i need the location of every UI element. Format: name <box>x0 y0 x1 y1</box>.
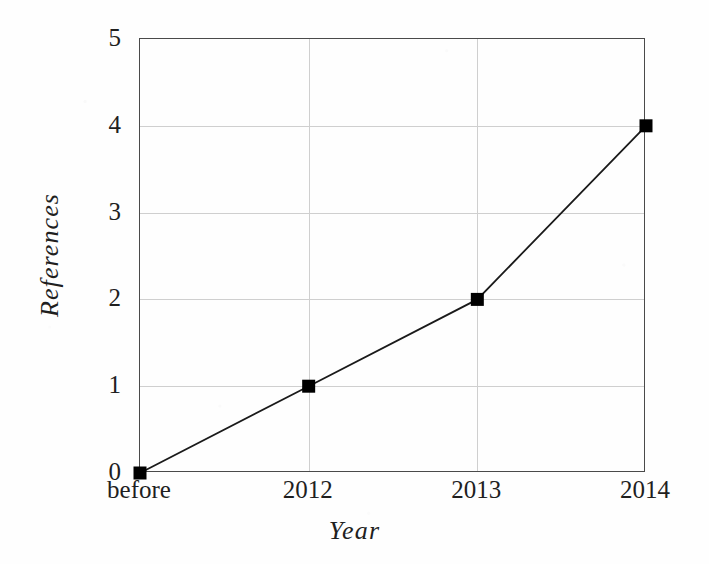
x-axis-title: Year <box>0 516 709 546</box>
y-axis-title: References <box>35 193 65 317</box>
chart-figure: 012345 before201220132014 References Yea… <box>0 0 709 564</box>
y-axis-tick-label: 1 <box>0 372 121 397</box>
y-axis-tick-label: 0 <box>0 459 121 484</box>
series-markers-references <box>134 119 653 479</box>
data-point-marker <box>471 293 484 306</box>
series-layer <box>140 39 646 473</box>
data-point-marker <box>640 119 653 132</box>
data-point-marker <box>302 380 315 393</box>
y-axis-tick-label: 5 <box>0 25 121 50</box>
data-point-marker <box>134 467 147 480</box>
y-axis-tick-label: 4 <box>0 112 121 137</box>
y-axis-title-wrapper: References <box>0 0 160 510</box>
plot-area <box>139 38 645 472</box>
x-axis-tick-label: 2013 <box>396 476 556 504</box>
x-axis-tick-label: 2012 <box>228 476 388 504</box>
x-axis-tick-label: 2014 <box>565 476 709 504</box>
series-line-references <box>140 126 646 473</box>
x-axis-tick-label: before <box>59 476 219 504</box>
y-axis-tick-label: 3 <box>0 199 121 224</box>
y-axis-tick-label: 2 <box>0 285 121 310</box>
